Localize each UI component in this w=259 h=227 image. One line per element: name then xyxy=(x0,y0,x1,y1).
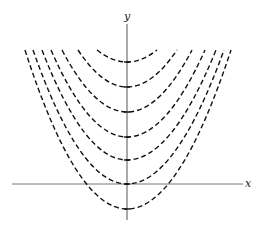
parabola-curve-5 xyxy=(42,50,216,160)
y-axis-label: y xyxy=(123,10,131,23)
x-axis-label: x xyxy=(245,177,252,190)
parabola-curve-7 xyxy=(25,50,231,209)
parabola-curves xyxy=(25,50,231,209)
parabola-family-diagram: x y xyxy=(0,0,259,227)
parabola-curve-4 xyxy=(51,50,205,137)
